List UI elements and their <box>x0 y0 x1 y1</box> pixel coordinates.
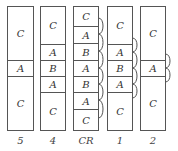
bond-arc-icon <box>133 52 138 68</box>
segment-label: C <box>149 28 157 39</box>
segment-label: C <box>49 20 57 31</box>
segment-label: A <box>48 79 56 90</box>
bond-arc-icon <box>99 68 104 84</box>
bond-arc-icon <box>99 18 104 34</box>
segment-label: A <box>81 30 89 41</box>
segment-label: A <box>16 63 24 74</box>
column-label: 5 <box>17 135 23 146</box>
segment-label: A <box>81 63 89 74</box>
segment-label: B <box>81 79 89 90</box>
segment-label: C <box>116 106 124 117</box>
bond-arc-icon <box>99 84 104 100</box>
bond-arc-icon <box>99 51 104 68</box>
bond-arc-icon <box>99 34 104 51</box>
column-1: CABAC1 <box>108 7 138 147</box>
column-2: CAC2 <box>141 7 171 147</box>
bond-arc-icon <box>166 68 171 82</box>
segment-label: B <box>48 63 56 74</box>
segment-label: C <box>49 106 57 117</box>
segment-label: B <box>115 63 123 74</box>
segment-label: C <box>17 28 25 39</box>
column-cr: CABABACCR <box>74 7 104 147</box>
column-4: CABAC4 <box>41 7 66 147</box>
segment-label: A <box>81 96 89 107</box>
segment-label: A <box>148 63 156 74</box>
column-label: 2 <box>149 135 156 146</box>
segment-label: A <box>115 79 123 90</box>
stacking-diagram: CAC5CABAC4CABABACCRCABAC1CAC2 <box>0 0 178 151</box>
column-label: 4 <box>49 135 56 146</box>
bond-arc-icon <box>99 100 104 118</box>
segment-label: C <box>116 20 124 31</box>
bond-arc-icon <box>133 84 138 98</box>
segment-label: A <box>48 47 56 58</box>
segment-label: C <box>17 98 25 109</box>
segment-label: C <box>149 98 157 109</box>
bond-arc-icon <box>133 38 138 52</box>
segment-label: B <box>81 47 89 58</box>
bond-arc-icon <box>166 54 171 68</box>
segment-label: C <box>82 115 90 126</box>
column-label: 1 <box>117 135 123 146</box>
column-5: CAC5 <box>8 7 34 147</box>
segment-label: A <box>115 47 123 58</box>
column-label: CR <box>78 135 94 146</box>
bond-arc-icon <box>133 68 138 84</box>
segment-label: C <box>82 11 90 22</box>
